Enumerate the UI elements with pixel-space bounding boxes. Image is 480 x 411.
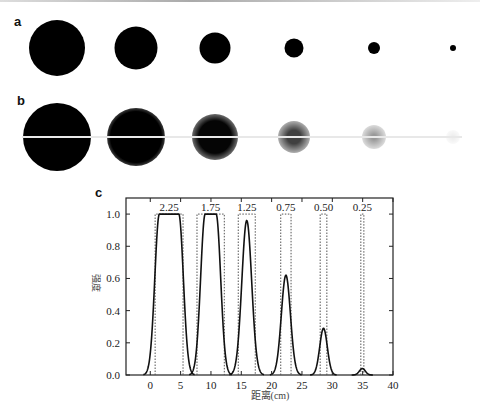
x-tick-label: 40 xyxy=(388,379,400,391)
y-tick-label: 0.4 xyxy=(106,305,120,317)
x-axis-label: 距离(cm) xyxy=(251,389,290,402)
peak-width-annotation: 2.25 xyxy=(159,201,179,213)
y-tick-label: 1.0 xyxy=(106,208,120,220)
x-tick-label: 5 xyxy=(178,379,184,391)
measured-curves xyxy=(143,214,373,375)
intensity-profile-chart: 05101520253035400.00.20.40.60.81.0 2.251… xyxy=(0,0,480,411)
x-tick-label: 25 xyxy=(296,379,308,391)
y-tick-label: 0.6 xyxy=(106,272,120,284)
x-tick-label: 0 xyxy=(148,379,154,391)
y-tick-label: 0.8 xyxy=(106,240,120,252)
peak-width-annotation: 1.75 xyxy=(201,201,221,213)
y-axis-label: 强度 xyxy=(91,274,102,292)
x-tick-label: 10 xyxy=(205,379,217,391)
x-tick-label: 35 xyxy=(357,379,369,391)
x-tick-label: 30 xyxy=(327,379,339,391)
peak-width-annotation: 0.25 xyxy=(353,201,373,213)
peak-width-annotation: 0.75 xyxy=(276,201,296,213)
peak-width-annotation: 0.50 xyxy=(314,201,334,213)
plot-frame xyxy=(126,198,393,375)
x-tick-label: 15 xyxy=(236,379,248,391)
ideal-dotted-rects xyxy=(155,214,364,375)
peak-annotations: 2.251.751.250.750.500.25 xyxy=(159,201,372,213)
y-tick-label: 0.0 xyxy=(106,369,120,381)
peak-width-annotation: 1.25 xyxy=(237,201,257,213)
y-tick-label: 0.2 xyxy=(106,337,120,349)
